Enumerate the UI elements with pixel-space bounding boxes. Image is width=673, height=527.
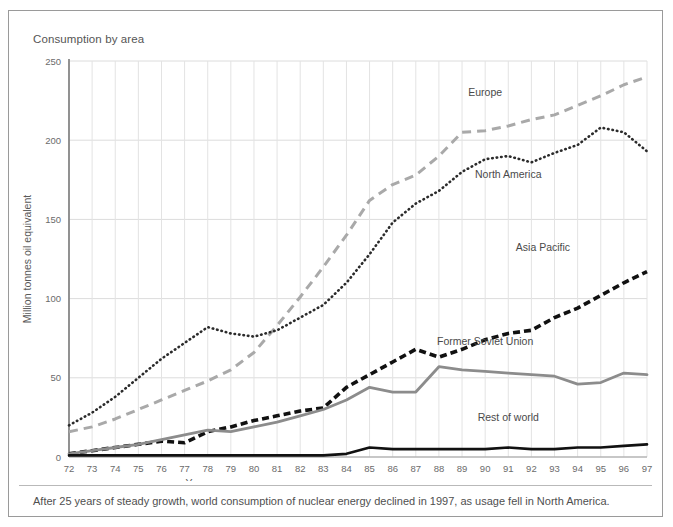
x-tick-label: 82: [295, 463, 306, 474]
axis-titles: YearMillion tonnes oil equivalent: [21, 195, 207, 481]
caption-divider: [19, 485, 652, 486]
y-tick-labels: 050100150200250: [45, 56, 61, 463]
x-tick-label: 97: [642, 463, 653, 474]
x-tick-label: 93: [549, 463, 560, 474]
line-chart-svg: 050100150200250 727374757677787980818283…: [9, 11, 664, 481]
x-tick-label: 85: [364, 463, 375, 474]
series-line-north-america: [69, 128, 647, 426]
x-tick-label: 73: [87, 463, 98, 474]
x-tick-label: 79: [226, 463, 237, 474]
x-tick-labels: 7273747576777879808182838485868788899091…: [64, 463, 653, 474]
x-tick-label: 95: [595, 463, 606, 474]
x-tick-label: 83: [318, 463, 329, 474]
x-tick-label: 78: [202, 463, 213, 474]
grid-lines: [69, 61, 647, 457]
x-tick-label: 81: [272, 463, 283, 474]
series-label-europe: Europe: [468, 86, 502, 98]
series-label-north-america: North America: [475, 168, 542, 180]
x-tick-label: 77: [179, 463, 190, 474]
y-tick-label: 100: [45, 293, 61, 304]
x-tick-label: 87: [411, 463, 422, 474]
y-axis-title: Million tonnes oil equivalent: [21, 195, 33, 323]
y-tick-label: 200: [45, 135, 61, 146]
data-series-lines: [69, 77, 647, 456]
figure-caption: After 25 years of steady growth, world c…: [33, 494, 643, 508]
x-tick-label: 74: [110, 463, 121, 474]
y-tick-label: 0: [56, 452, 61, 463]
x-tick-label: 89: [457, 463, 468, 474]
x-tick-label: 94: [572, 463, 583, 474]
series-line-former-soviet-union: [69, 367, 647, 454]
y-tick-label: 150: [45, 214, 61, 225]
chart-plot-area: 050100150200250 727374757677787980818283…: [9, 11, 664, 518]
x-tick-label: 91: [503, 463, 514, 474]
x-tick-label: 88: [434, 463, 445, 474]
x-tick-label: 80: [249, 463, 260, 474]
series-label-former-soviet-union: Former Soviet Union: [437, 335, 533, 347]
x-tick-label: 75: [133, 463, 144, 474]
x-axis-title: Year: [186, 477, 208, 481]
x-tick-label: 86: [387, 463, 398, 474]
x-tick-label: 96: [619, 463, 630, 474]
series-label-rest-of-world: Rest of world: [478, 411, 539, 423]
x-tick-label: 92: [526, 463, 537, 474]
y-tick-label: 250: [45, 56, 61, 67]
figure-panel: Consumption by area 050100150200250 7273…: [8, 10, 663, 517]
series-label-asia-pacific: Asia Pacific: [516, 241, 570, 253]
axis-lines: [69, 59, 647, 457]
x-tick-label: 76: [156, 463, 167, 474]
x-tick-label: 72: [64, 463, 75, 474]
series-line-rest-of-world: [69, 444, 647, 455]
x-tick-label: 84: [341, 463, 352, 474]
x-tick-label: 90: [480, 463, 491, 474]
y-tick-label: 50: [50, 372, 61, 383]
